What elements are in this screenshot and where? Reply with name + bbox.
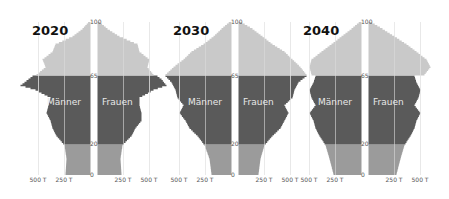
male-age-20-64-band bbox=[21, 76, 91, 145]
male-age-20-64-band bbox=[166, 76, 232, 145]
x-tick-label: 250 T bbox=[56, 176, 73, 183]
age-tick-label: 20 bbox=[361, 140, 369, 147]
panel-title: 2030 bbox=[173, 23, 209, 38]
x-tick-label: 500 T bbox=[282, 176, 299, 183]
age-tick-label: 100 bbox=[361, 18, 372, 25]
female-label: Frauen bbox=[373, 97, 404, 107]
female-age-0-19-band bbox=[369, 144, 405, 175]
male-age-0-19-band bbox=[326, 144, 362, 175]
panel-title: 2040 bbox=[303, 23, 339, 38]
female-label: Frauen bbox=[102, 97, 133, 107]
age-tick-label: 65 bbox=[231, 72, 239, 79]
age-tick-label: 65 bbox=[361, 72, 369, 79]
male-label: Männer bbox=[188, 97, 222, 107]
female-age-0-19-band bbox=[239, 144, 265, 175]
female-age-20-64-band bbox=[98, 76, 167, 145]
x-tick-label: 250 T bbox=[386, 176, 403, 183]
male-label: Männer bbox=[318, 97, 352, 107]
female-age-20-64-band bbox=[239, 76, 307, 145]
x-tick-label: 500 T bbox=[301, 176, 318, 183]
age-tick-label: 65 bbox=[90, 72, 98, 79]
age-tick-label: 0 bbox=[361, 171, 365, 178]
male-age-0-19-band bbox=[65, 144, 91, 175]
x-tick-label: 250 T bbox=[256, 176, 273, 183]
x-tick-label: 500 T bbox=[412, 176, 429, 183]
x-tick-label: 250 T bbox=[327, 176, 344, 183]
female-age-65-plus-band bbox=[239, 22, 307, 76]
male-label: Männer bbox=[47, 97, 81, 107]
female-age-0-19-band bbox=[98, 144, 123, 175]
x-tick-label: 500 T bbox=[141, 176, 158, 183]
age-tick-label: 100 bbox=[90, 18, 101, 25]
panel-title: 2020 bbox=[32, 23, 68, 38]
female-label: Frauen bbox=[243, 97, 274, 107]
female-age-65-plus-band bbox=[98, 22, 154, 76]
x-tick-label: 250 T bbox=[197, 176, 214, 183]
male-age-0-19-band bbox=[205, 144, 232, 175]
x-tick-label: 500 T bbox=[30, 176, 47, 183]
age-tick-label: 20 bbox=[231, 140, 239, 147]
age-tick-label: 20 bbox=[90, 140, 98, 147]
age-tick-label: 0 bbox=[90, 171, 94, 178]
x-tick-label: 500 T bbox=[171, 176, 188, 183]
age-tick-label: 100 bbox=[231, 18, 242, 25]
age-tick-label: 0 bbox=[231, 171, 235, 178]
female-age-65-plus-band bbox=[369, 22, 431, 76]
x-tick-label: 250 T bbox=[115, 176, 132, 183]
